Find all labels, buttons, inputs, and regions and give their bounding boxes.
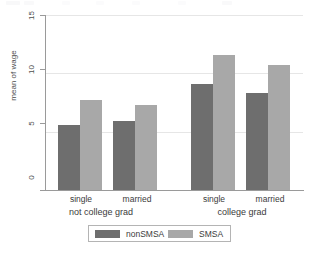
- figure: mean of wage 15 10 5 0: [0, 9, 315, 258]
- x-category-label-notcollege-single: single: [61, 194, 101, 204]
- plot-area: [46, 15, 303, 190]
- bar-notcollege-married-nonsmsa: [113, 121, 135, 190]
- legend-swatch-nonsmsa: [95, 230, 120, 238]
- legend: nonSMSA SMSA: [88, 225, 231, 242]
- gridline-15: [46, 15, 303, 16]
- bar-college-single-smsa: [213, 55, 235, 190]
- legend-entry-nonsmsa: nonSMSA: [95, 226, 164, 241]
- x-category-label-notcollege-married: married: [115, 194, 159, 204]
- y-tick-label-0: 0: [27, 167, 36, 189]
- cropped-text-artifact: [0, 0, 315, 9]
- y-tick-label-10: 10: [27, 59, 36, 81]
- bar-college-single-nonsmsa: [191, 84, 213, 190]
- bar-notcollege-single-nonsmsa: [58, 125, 80, 190]
- legend-entry-smsa: SMSA: [168, 226, 223, 241]
- y-tick-label-15: 15: [27, 5, 36, 27]
- legend-label-nonsmsa: nonSMSA: [126, 229, 164, 239]
- bar-notcollege-married-smsa: [135, 105, 157, 190]
- bar-notcollege-single-smsa: [80, 100, 102, 190]
- legend-label-smsa: SMSA: [199, 229, 223, 239]
- x-category-label-college-married: married: [248, 194, 292, 204]
- y-axis-label: mean of wage: [9, 41, 18, 111]
- gridline-10: [46, 73, 303, 74]
- x-group-label-college-grad: college grad: [194, 207, 290, 217]
- x-group-label-not-college-grad: not college grad: [53, 207, 149, 217]
- x-axis-line: [45, 190, 304, 191]
- x-category-label-college-single: single: [194, 194, 234, 204]
- chart-screenshot: mean of wage 15 10 5 0: [0, 0, 315, 258]
- legend-swatch-smsa: [168, 230, 193, 238]
- bar-college-married-smsa: [268, 65, 290, 190]
- y-tick-label-5: 5: [27, 113, 36, 135]
- bar-college-married-nonsmsa: [246, 93, 268, 190]
